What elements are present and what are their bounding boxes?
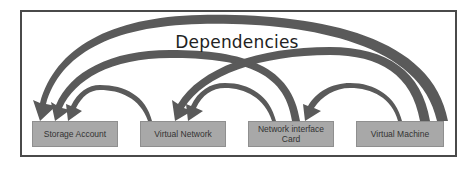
- node-virtual-machine: Virtual Machine: [356, 121, 444, 147]
- dependency-arrows: [0, 0, 474, 173]
- node-virtual-network: Virtual Network: [140, 121, 226, 147]
- arrow-vm-to-nic: [303, 83, 402, 121]
- diagram-title: Dependencies: [0, 32, 474, 52]
- arrow-vnet-to-storage: [66, 85, 152, 121]
- node-network-interface-card: Network interface Card: [248, 121, 334, 147]
- node-storage-account: Storage Account: [32, 121, 118, 147]
